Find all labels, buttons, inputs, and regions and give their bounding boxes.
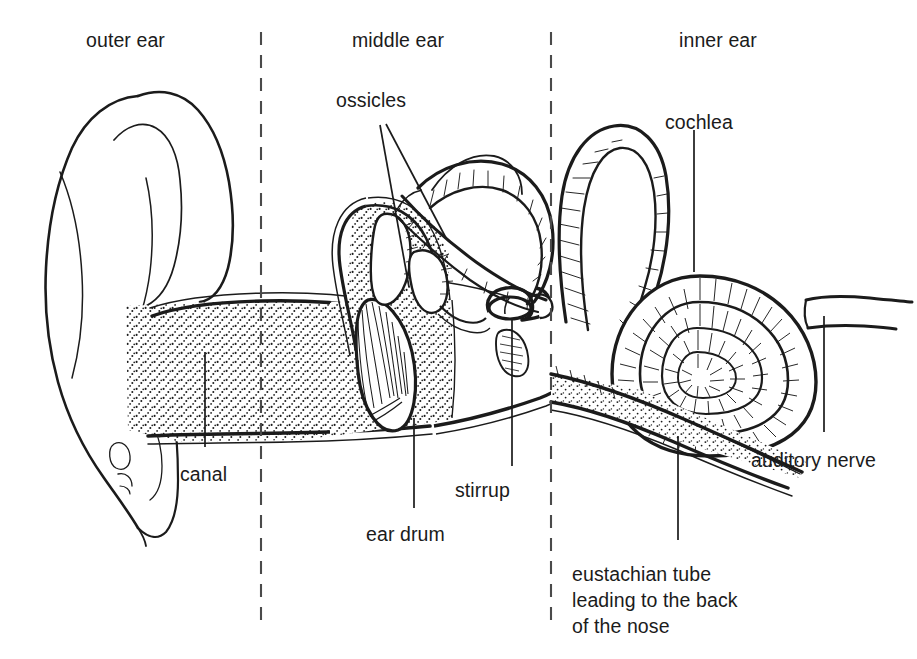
region-label-outer-ear: outer ear — [86, 28, 165, 53]
part-label-cochlea: cochlea — [665, 110, 733, 135]
part-label-stirrup: stirrup — [455, 478, 510, 503]
part-label-ossicles: ossicles — [336, 88, 406, 113]
region-label-middle-ear: middle ear — [352, 28, 444, 53]
part-label-auditory-nerve: auditory nerve — [751, 448, 876, 473]
part-label-eustachian-tube-line3: of the nose — [572, 614, 670, 639]
stirrup — [488, 288, 553, 377]
part-label-eustachian-tube-line1: eustachian tube — [572, 562, 711, 587]
ear-illustration — [0, 0, 917, 659]
part-label-eustachian-tube-line2: leading to the back — [572, 588, 738, 613]
auditory-nerve — [805, 297, 912, 329]
region-label-inner-ear: inner ear — [679, 28, 757, 53]
part-label-canal: canal — [180, 462, 227, 487]
part-label-ear-drum: ear drum — [366, 522, 445, 547]
ear-anatomy-diagram: outer ear middle ear inner ear ossicles … — [0, 0, 917, 659]
